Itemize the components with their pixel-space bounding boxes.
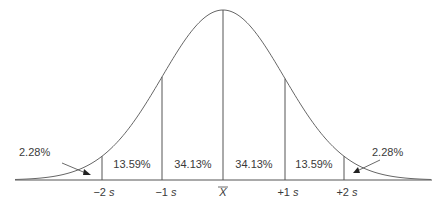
normal-curve-diagram xyxy=(0,0,444,209)
band-plus1-plus2-percent: 13.59% xyxy=(295,158,332,170)
tick-minus-1s: −1 s xyxy=(155,186,176,198)
tick-minus-2s: −2 s xyxy=(93,186,114,198)
tick-plus-2s: +2 s xyxy=(336,186,357,198)
band-minus2-minus1-percent: 13.59% xyxy=(113,158,150,170)
right-tail-arrow xyxy=(357,160,380,171)
tick-mean: X xyxy=(219,186,226,198)
tick-plus-1s: +1 s xyxy=(277,186,298,198)
band-minus1-mean-percent: 34.13% xyxy=(174,158,211,170)
band-mean-plus1-percent: 34.13% xyxy=(235,158,272,170)
left-tail-percent: 2.28% xyxy=(19,146,50,158)
right-arrowhead-icon xyxy=(353,167,360,173)
right-tail-percent: 2.28% xyxy=(372,146,403,158)
left-arrowhead-icon xyxy=(83,169,91,175)
